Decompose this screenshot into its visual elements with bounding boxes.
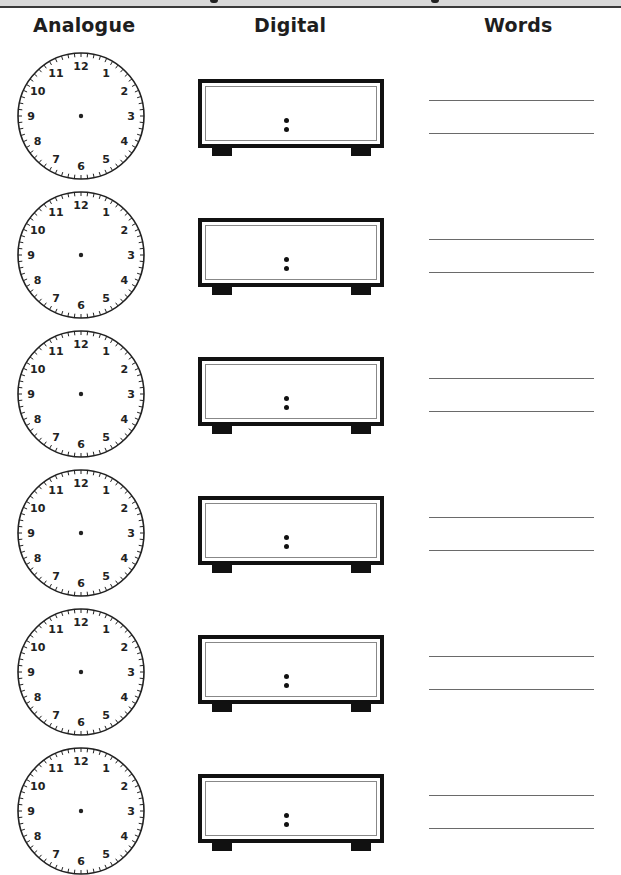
column-header-analogue: Analogue xyxy=(33,14,135,36)
digital-clock[interactable] xyxy=(198,496,384,573)
clock-numeral: 9 xyxy=(27,527,35,540)
digital-clock-screen xyxy=(205,86,377,141)
clock-numeral: 1 xyxy=(102,67,110,80)
words-answer-line-1[interactable] xyxy=(429,656,594,657)
clock-numeral: 3 xyxy=(127,249,135,262)
clock-numeral: 2 xyxy=(120,641,128,654)
worksheet-row: 121234567891011 xyxy=(0,468,621,607)
title-glyph-fragment xyxy=(431,0,439,3)
digital-clock-screen xyxy=(205,225,377,280)
clock-center-pin xyxy=(79,670,83,674)
words-answer-line-2[interactable] xyxy=(429,411,594,412)
digital-clock-frame xyxy=(198,79,384,148)
digital-clock-frame xyxy=(198,496,384,565)
clock-numeral: 5 xyxy=(102,292,110,305)
digital-clock[interactable] xyxy=(198,635,384,712)
digital-clock-foot-left xyxy=(212,287,232,295)
analogue-clock-face[interactable]: 121234567891011 xyxy=(16,51,146,181)
colon-dot-top xyxy=(284,257,289,262)
digital-clock-screen xyxy=(205,364,377,419)
digital-clock[interactable] xyxy=(198,774,384,851)
clock-center-pin xyxy=(79,531,83,535)
clock-numeral: 6 xyxy=(77,299,85,312)
digital-clock[interactable] xyxy=(198,357,384,434)
digital-clock[interactable] xyxy=(198,218,384,295)
clock-numeral: 2 xyxy=(120,363,128,376)
words-answer-line-1[interactable] xyxy=(429,239,594,240)
clock-numeral: 8 xyxy=(34,830,42,843)
digital-clock-foot-left xyxy=(212,148,232,156)
words-answer-line-2[interactable] xyxy=(429,550,594,551)
clock-numeral: 5 xyxy=(102,431,110,444)
clock-numeral: 1 xyxy=(102,762,110,775)
analogue-clock-face[interactable]: 121234567891011 xyxy=(16,190,146,320)
clock-numeral: 7 xyxy=(52,709,60,722)
digital-clock-frame xyxy=(198,635,384,704)
digital-clock-frame xyxy=(198,774,384,843)
words-answer-line-2[interactable] xyxy=(429,828,594,829)
words-answer-line-1[interactable] xyxy=(429,378,594,379)
clock-numeral: 6 xyxy=(77,716,85,729)
clock-numeral: 6 xyxy=(77,160,85,173)
title-banner xyxy=(0,0,621,8)
analogue-clock-face[interactable]: 121234567891011 xyxy=(16,607,146,737)
digital-clock[interactable] xyxy=(198,79,384,156)
worksheet-row: 121234567891011 xyxy=(0,51,621,190)
words-answer-line-1[interactable] xyxy=(429,517,594,518)
clock-numeral: 4 xyxy=(120,135,128,148)
clock-numeral: 1 xyxy=(102,206,110,219)
colon-dot-bottom xyxy=(284,683,289,688)
digital-clock-foot-right xyxy=(351,287,371,295)
clock-numeral: 4 xyxy=(120,691,128,704)
analogue-clock-face[interactable]: 121234567891011 xyxy=(16,329,146,459)
clock-numeral: 12 xyxy=(73,755,88,768)
clock-numeral: 7 xyxy=(52,848,60,861)
title-glyph-fragment xyxy=(210,0,218,3)
clock-numeral: 11 xyxy=(48,762,63,775)
clock-numeral: 8 xyxy=(34,413,42,426)
colon-dot-bottom xyxy=(284,544,289,549)
digital-clock-foot-right xyxy=(351,704,371,712)
clock-numeral: 4 xyxy=(120,413,128,426)
clock-numeral: 3 xyxy=(127,388,135,401)
words-answer-line-2[interactable] xyxy=(429,133,594,134)
digital-clock-foot-left xyxy=(212,843,232,851)
clock-numeral: 4 xyxy=(120,552,128,565)
clock-numeral: 2 xyxy=(120,502,128,515)
colon-dot-top xyxy=(284,674,289,679)
clock-numeral: 1 xyxy=(102,623,110,636)
clock-numeral: 12 xyxy=(73,477,88,490)
colon-dot-top xyxy=(284,396,289,401)
words-answer-line-1[interactable] xyxy=(429,795,594,796)
digital-clock-foot-left xyxy=(212,704,232,712)
clock-numeral: 12 xyxy=(73,60,88,73)
clock-numeral: 10 xyxy=(30,363,46,376)
words-answer-line-1[interactable] xyxy=(429,100,594,101)
colon-dot-bottom xyxy=(284,405,289,410)
words-answer-line-2[interactable] xyxy=(429,689,594,690)
clock-numeral: 10 xyxy=(30,224,46,237)
analogue-clock-face[interactable]: 121234567891011 xyxy=(16,746,146,875)
clock-numeral: 3 xyxy=(127,666,135,679)
words-answer-line-2[interactable] xyxy=(429,272,594,273)
clock-numeral: 8 xyxy=(34,691,42,704)
column-header-words: Words xyxy=(484,14,553,36)
digital-clock-screen xyxy=(205,781,377,836)
clock-numeral: 5 xyxy=(102,709,110,722)
digital-clock-screen xyxy=(205,642,377,697)
digital-clock-frame xyxy=(198,357,384,426)
worksheet-row: 121234567891011 xyxy=(0,607,621,746)
clock-numeral: 12 xyxy=(73,616,88,629)
column-header-digital: Digital xyxy=(254,14,326,36)
colon-dot-top xyxy=(284,813,289,818)
clock-numeral: 5 xyxy=(102,153,110,166)
clock-numeral: 6 xyxy=(77,438,85,451)
clock-numeral: 7 xyxy=(52,570,60,583)
clock-numeral: 4 xyxy=(120,274,128,287)
analogue-clock-face[interactable]: 121234567891011 xyxy=(16,468,146,598)
clock-numeral: 5 xyxy=(102,848,110,861)
clock-numeral: 12 xyxy=(73,199,88,212)
clock-numeral: 11 xyxy=(48,206,63,219)
clock-numeral: 9 xyxy=(27,249,35,262)
clock-center-pin xyxy=(79,253,83,257)
